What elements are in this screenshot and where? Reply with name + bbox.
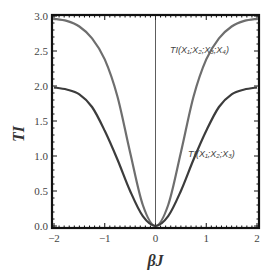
y-tick-label: 2.0 — [34, 80, 48, 92]
y-tick-label: 2.5 — [34, 45, 48, 57]
annotation-ti-3: TI(X₁;X₂;X₃) — [188, 149, 235, 159]
annotation-ti-4: TI(X₁;X₂;X₃;X₄) — [170, 45, 229, 55]
x-axis-label: βJ — [146, 252, 164, 270]
x-tick-label: 0 — [153, 232, 159, 244]
y-tick-label: 1.0 — [34, 150, 48, 162]
chart: −2−10120.00.51.01.52.02.53.0 TI(X₁;X₂;X₃… — [0, 0, 273, 279]
x-tick-label: −2 — [48, 232, 60, 244]
x-tick-label: 2 — [254, 232, 260, 244]
x-tick-label: 1 — [204, 232, 210, 244]
y-axis-label: TI — [10, 125, 27, 142]
y-tick-label: 1.5 — [34, 115, 48, 127]
y-tick-label: 3.0 — [34, 10, 48, 22]
y-tick-label: 0.5 — [34, 185, 48, 197]
y-tick-label: 0.0 — [34, 220, 48, 232]
x-tick-label: −1 — [99, 232, 111, 244]
